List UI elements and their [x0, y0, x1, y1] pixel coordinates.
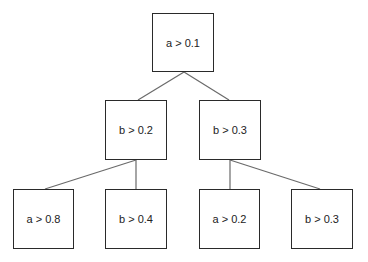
node-left-right: b > 0.4: [105, 189, 167, 249]
node-label: b > 0.3: [213, 124, 247, 136]
node-left-left: a > 0.8: [13, 189, 74, 249]
node-label: b > 0.2: [119, 124, 153, 136]
node-label: a > 0.2: [213, 213, 247, 225]
node-label: b > 0.4: [119, 213, 153, 225]
node-label: b > 0.3: [305, 213, 339, 225]
node-right-right: b > 0.3: [291, 189, 353, 249]
node-right: b > 0.3: [199, 100, 261, 160]
edge-left-to-left-left: [45, 160, 136, 189]
decision-tree-diagram: a > 0.1 b > 0.2 b > 0.3 a > 0.8 b > 0.4 …: [0, 0, 368, 262]
node-root: a > 0.1: [152, 13, 214, 72]
node-label: a > 0.8: [27, 213, 61, 225]
node-right-left: a > 0.2: [199, 189, 260, 249]
edge-root-to-left: [138, 72, 184, 100]
node-label: a > 0.1: [166, 37, 200, 49]
edge-right-to-right-right: [230, 160, 320, 189]
edge-root-to-right: [184, 72, 229, 100]
node-left: b > 0.2: [105, 100, 167, 160]
